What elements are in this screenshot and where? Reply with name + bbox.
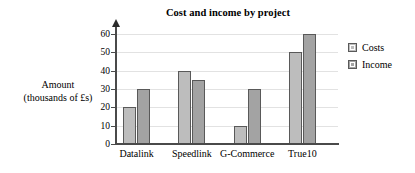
x-axis-line [115,143,339,145]
y-axis-tick-label: 60 [88,29,110,39]
y-axis-tick-mark [111,107,116,108]
y-axis-tick-mark [111,89,116,90]
x-axis-tick-labels: DatalinkSpeedlinkG-CommerceTrue10 [117,147,338,163]
plot-area [117,34,338,144]
x-axis-label-true10: True10 [257,147,347,160]
legend-item-costs[interactable]: Costs [348,39,392,56]
chart-legend: CostsIncome [348,39,392,73]
y-axis-tick-label: 10 [88,121,110,131]
bar-datalink-costs [123,107,136,144]
bar-speedlink-income [192,80,205,144]
bar-speedlink-costs [178,71,191,144]
legend-label: Costs [362,42,384,53]
legend-swatch-icon [348,60,357,69]
y-axis-tick-label: 40 [88,66,110,76]
y-axis-tick-label: 50 [88,47,110,57]
y-axis-tick-mark [111,34,116,35]
legend-label: Income [362,59,392,70]
y-axis-tick-label: 30 [88,84,110,94]
y-axis-tick-label: 20 [88,102,110,112]
legend-swatch-icon [348,43,357,52]
y-axis-tick-mark [111,126,116,127]
y-axis-arrow-icon [112,19,120,27]
bar-true10-costs [289,52,302,144]
legend-item-income[interactable]: Income [348,56,392,73]
bar-g-commerce-costs [234,126,247,144]
bar-datalink-income [137,89,150,144]
y-axis-tick-mark [111,144,116,145]
bar-true10-income [303,34,316,144]
y-axis-tick-mark [111,52,116,53]
bar-chart-figure: Cost and income by project Amount (thous… [0,0,415,173]
chart-title: Cost and income by project [118,7,338,19]
bar-g-commerce-income [248,89,261,144]
y-axis-tick-mark [111,71,116,72]
